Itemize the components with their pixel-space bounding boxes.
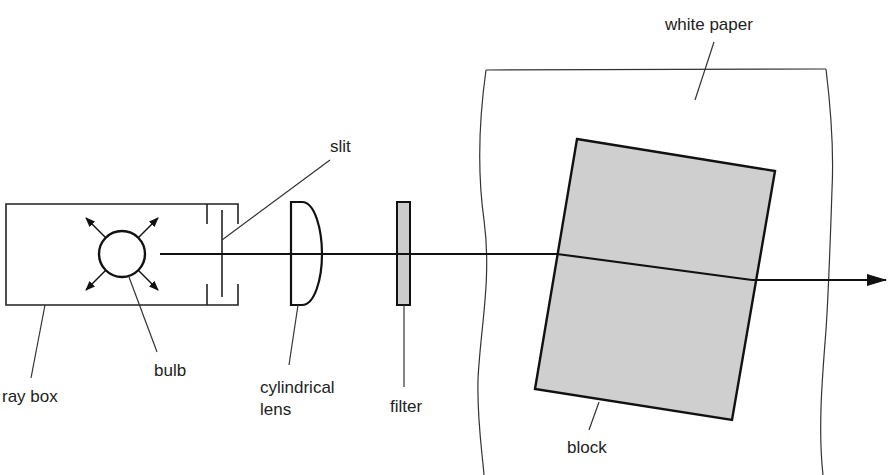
light-ray xyxy=(160,254,886,280)
diagram-canvas: white paper slit ray box bulb cylindrica… xyxy=(0,0,888,475)
leader-cylindrical-lens xyxy=(289,305,298,365)
label-filter: filter xyxy=(390,397,422,416)
label-white-paper: white paper xyxy=(664,15,753,34)
leader-block xyxy=(589,402,599,430)
leader-white-paper xyxy=(695,42,714,100)
leader-ray-box xyxy=(31,305,45,378)
glass-block xyxy=(535,139,775,420)
label-slit: slit xyxy=(330,137,351,156)
label-bulb: bulb xyxy=(154,361,186,380)
label-block: block xyxy=(567,438,607,457)
label-ray-box: ray box xyxy=(2,387,58,406)
label-cylindrical-lens-line2: lens xyxy=(260,400,291,419)
leader-bulb xyxy=(129,277,157,352)
bulb xyxy=(86,218,158,290)
label-cylindrical-lens-line1: cylindrical xyxy=(260,378,335,397)
